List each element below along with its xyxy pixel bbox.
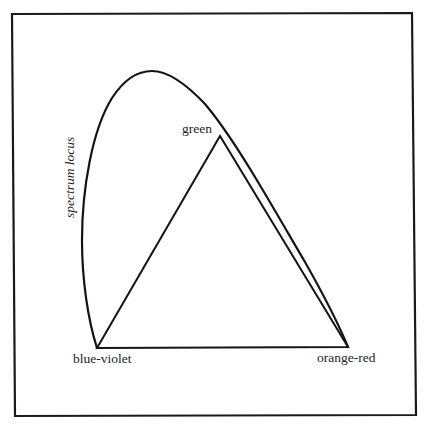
- chromaticity-diagram: green blue-violet orange-red spectrum lo…: [0, 0, 427, 424]
- label-green: green: [182, 121, 212, 136]
- gamut-triangle: [97, 136, 348, 348]
- label-orange-red: orange-red: [317, 350, 376, 365]
- label-spectrum-locus: spectrum locus: [62, 137, 77, 218]
- label-blue-violet: blue-violet: [73, 351, 132, 366]
